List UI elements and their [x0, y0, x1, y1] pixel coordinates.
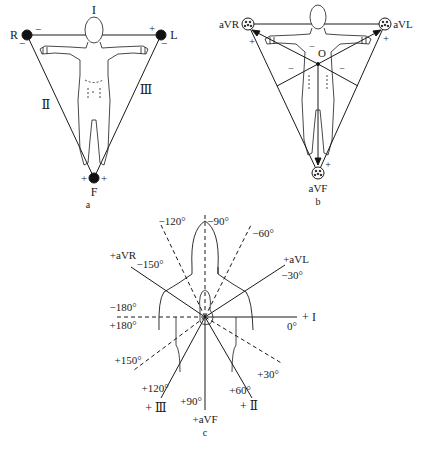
avf-label: aVF	[309, 182, 328, 194]
minus-sign: −	[309, 41, 315, 52]
lead-ii-line	[27, 35, 94, 178]
minus-sign: −	[19, 37, 25, 49]
plus-sign: +	[383, 33, 389, 44]
caption-c: c	[203, 427, 208, 438]
panel-b-augmented-leads	[242, 5, 391, 179]
electrode-avr-icon	[242, 18, 254, 30]
lead-i-label: I	[92, 2, 96, 17]
angle-plus-180: +180°	[109, 319, 136, 331]
panel-c-labels: −120° −90° −60° +aVR −150° +aVL −30° −18…	[109, 215, 315, 438]
lead-i-axis-label: + I	[302, 310, 316, 324]
electrode-f-label: F	[91, 185, 98, 199]
plus-sign: +	[249, 36, 255, 47]
axis-minus-60	[205, 225, 251, 317]
arrow-icon	[315, 158, 321, 165]
electrode-r-label: R	[10, 28, 18, 42]
angle-plus-30: +30°	[257, 368, 279, 380]
angle-plus-60: +60°	[229, 384, 251, 396]
electrode-avl-icon	[379, 18, 391, 30]
lead-iii-label: Ⅲ	[140, 82, 153, 97]
lead-iii-axis-label: + Ⅲ	[145, 401, 166, 415]
minus-sign: −	[288, 63, 294, 74]
angle-minus-90: −90°	[207, 215, 229, 227]
electrode-avf-icon	[312, 167, 324, 179]
axis-plus-30	[205, 317, 283, 364]
panel-c-hexaxial	[116, 215, 297, 410]
avf-axis-label: +aVF	[192, 413, 217, 425]
angle-minus-30: −30°	[281, 269, 303, 281]
axis-minus-120	[161, 225, 205, 317]
electrode-f-icon	[89, 173, 99, 183]
avr-label: aVR	[219, 18, 240, 30]
angle-plus-150: +150°	[114, 354, 141, 366]
minus-sign: −	[339, 63, 345, 74]
angle-minus-120: −120°	[158, 215, 185, 227]
caption-a: a	[86, 199, 91, 210]
angle-plus-90: +90°	[180, 395, 202, 407]
avr-axis-label: +aVR	[110, 249, 137, 261]
axis-avr	[131, 267, 205, 317]
electrode-l-label: L	[170, 28, 177, 42]
body-figure-icon	[40, 17, 148, 165]
torso-figure-icon	[159, 221, 253, 372]
plus-sign: +	[325, 159, 331, 170]
caption-b: b	[316, 196, 321, 207]
avl-label: aVL	[393, 18, 413, 30]
angle-zero: 0°	[287, 320, 297, 332]
axis-plus-150	[134, 317, 205, 370]
minus-sign: −	[161, 37, 167, 49]
center-o-label: O	[318, 47, 326, 59]
angle-minus-60: −60°	[252, 227, 274, 239]
avl-axis-label: +aVL	[283, 253, 309, 265]
plus-sign: +	[149, 22, 155, 34]
lead-ii-axis-label: + Ⅱ	[240, 399, 258, 413]
plus-sign: +	[101, 172, 107, 184]
lead-iii-line	[94, 35, 161, 178]
ecg-lead-diagram: I R L F Ⅱ Ⅲ − − + − + + a	[0, 0, 424, 449]
angle-plus-120: +120°	[141, 382, 168, 394]
angle-minus-150: −150°	[136, 258, 163, 270]
lead-ii-label: Ⅱ	[42, 97, 51, 112]
axis-avl	[205, 265, 285, 317]
minus-sign: −	[35, 23, 41, 35]
angle-minus-180: −180°	[109, 301, 136, 313]
plus-sign: +	[81, 172, 87, 184]
